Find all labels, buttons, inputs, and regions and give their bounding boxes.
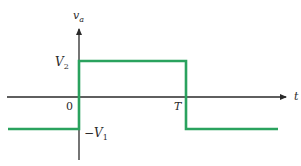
origin-label: 0 bbox=[66, 100, 73, 113]
x-axis-label: t bbox=[294, 90, 299, 103]
square-wave-diagram: va t V2 0 T −V1 bbox=[0, 0, 301, 166]
low-level-label: −V1 bbox=[84, 126, 108, 142]
period-label: T bbox=[174, 100, 183, 113]
y-axis-label: va bbox=[73, 9, 84, 24]
high-level-label: V2 bbox=[55, 55, 69, 71]
square-waveform bbox=[8, 61, 278, 129]
